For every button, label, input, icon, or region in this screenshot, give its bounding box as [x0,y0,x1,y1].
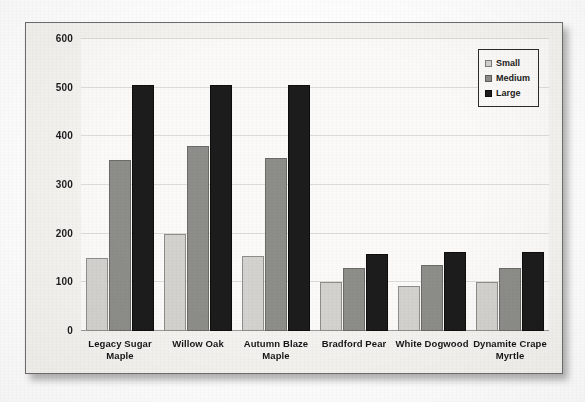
x-axis-category-label: Dynamite Crape Myrtle [471,338,549,362]
bar-group: Legacy Sugar Maple [81,39,159,331]
x-axis-category-label: White Dogwood [393,338,471,350]
bar-large[interactable] [132,85,154,331]
x-axis-category-label: Willow Oak [159,338,237,350]
x-axis-category-label: Autumn Blaze Maple [237,338,315,362]
bar-group: Bradford Pear [315,39,393,331]
bar-group: Autumn Blaze Maple [237,39,315,331]
bar-medium[interactable] [343,268,365,331]
legend-item-small[interactable]: Small [485,56,530,70]
bar-group: Willow Oak [159,39,237,331]
x-axis-category-label: Legacy Sugar Maple [81,338,159,362]
bar-small[interactable] [164,234,186,331]
chart-frame: 0100200300400500600 Legacy Sugar MapleWi… [25,22,563,374]
bar-large[interactable] [366,254,388,331]
y-axis-tick-label: 0 [67,325,73,336]
bar-large[interactable] [210,85,232,331]
y-axis-tick-label: 500 [56,81,73,92]
bar-small[interactable] [86,258,108,331]
legend-item-label: Small [496,58,520,68]
bar-small[interactable] [242,256,264,331]
bar-medium[interactable] [187,146,209,331]
y-axis-tick-label: 600 [56,33,73,44]
bar-large[interactable] [288,85,310,331]
legend-item-label: Large [496,88,521,98]
legend-swatch-small-icon [485,60,492,67]
y-axis-tick-label: 300 [56,179,73,190]
legend-swatch-medium-icon [485,75,492,82]
bar-medium[interactable] [421,265,443,331]
bar-small[interactable] [320,282,342,331]
bar-medium[interactable] [265,158,287,331]
chart-legend: SmallMediumLarge [478,49,539,107]
y-axis-tick-label: 400 [56,130,73,141]
bar-large[interactable] [522,252,544,331]
scanned-page: 0100200300400500600 Legacy Sugar MapleWi… [0,0,585,402]
bar-group: White Dogwood [393,39,471,331]
legend-swatch-large-icon [485,90,492,97]
y-axis-tick-label: 200 [56,227,73,238]
bar-small[interactable] [398,286,420,331]
y-axis-tick-label: 100 [56,276,73,287]
bar-small[interactable] [476,282,498,331]
bar-medium[interactable] [109,160,131,331]
legend-item-label: Medium [496,73,530,83]
legend-item-medium[interactable]: Medium [485,71,530,85]
legend-item-large[interactable]: Large [485,86,530,100]
bar-medium[interactable] [499,268,521,331]
bar-large[interactable] [444,252,466,331]
x-axis-category-label: Bradford Pear [315,338,393,350]
